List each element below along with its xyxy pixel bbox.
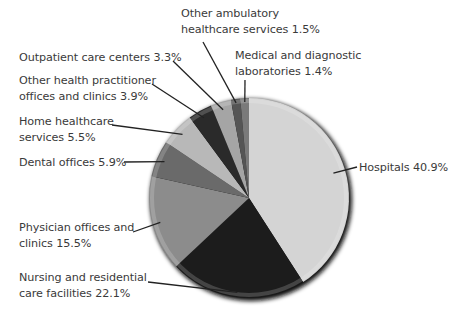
leader-line bbox=[112, 125, 183, 134]
label-physician: Physician offices and clinics 15.5% bbox=[19, 220, 134, 252]
label-home-healthcare: Home healthcare services 5.5% bbox=[19, 114, 114, 146]
label-dental: Dental offices 5.9% bbox=[19, 155, 126, 171]
leader-line bbox=[203, 42, 236, 103]
label-outpatient: Outpatient care centers 3.3% bbox=[19, 50, 181, 66]
label-nursing: Nursing and residential care facilities … bbox=[19, 270, 147, 302]
leader-line bbox=[152, 84, 204, 118]
pie-slices bbox=[149, 98, 349, 298]
label-medical-labs: Medical and diagnostic laboratories 1.4% bbox=[235, 48, 361, 80]
label-hospitals: Hospitals 40.9% bbox=[359, 160, 448, 176]
label-other-practitioner: Other health practitioner offices and cl… bbox=[19, 73, 156, 105]
label-other-ambulatory: Other ambulatory healthcare services 1.5… bbox=[181, 6, 320, 38]
